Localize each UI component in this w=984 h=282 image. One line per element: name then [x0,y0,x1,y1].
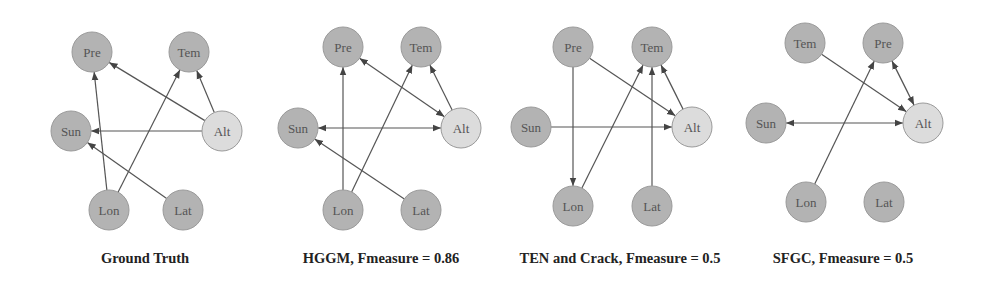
node-label-pre: Pre [83,45,101,60]
causal-graphs-figure: PreTemSunAltLonLatPreTemSunAltLonLatPreT… [0,0,984,282]
node-label-tem: Tem [410,40,433,55]
node-label-lat: Lat [643,199,661,214]
node-label-sun: Sun [61,124,82,139]
edge-alt-tem [197,70,215,112]
edge-alt-tem [661,65,683,109]
graph-2-edges [551,58,683,188]
edge-pre-alt [359,58,444,116]
node-label-lat: Lat [412,203,430,218]
node-label-sun: Sun [521,120,542,135]
node-label-lon: Lon [796,195,817,210]
node-label-alt: Alt [915,116,932,131]
graph-1-edges [315,58,453,199]
node-label-tem: Tem [178,45,201,60]
node-label-pre: Pre [334,40,352,55]
graph-3-edges [786,54,914,184]
caption-sfgc: SFGC, Fmeasure = 0.5 [773,250,914,267]
node-label-sun: Sun [288,121,309,136]
node-label-lon: Lon [333,203,354,218]
node-label-lon: Lon [563,199,584,214]
node-label-tem: Tem [794,36,817,51]
node-label-sun: Sun [756,116,777,131]
node-label-lon: Lon [99,203,120,218]
node-label-tem: Tem [641,40,664,55]
edge-lat-sun [315,139,405,199]
node-label-alt: Alt [453,121,470,136]
node-label-pre: Pre [874,36,892,51]
nodes-layer: PreTemSunAltLonLatPreTemSunAltLonLatPreT… [51,23,943,230]
edge-alt-tem [430,65,452,110]
node-label-pre: Pre [564,40,582,55]
caption-ten-crack: TEN and Crack, Fmeasure = 0.5 [520,250,721,267]
edge-lat-sun [87,143,166,199]
caption-ground-truth: Ground Truth [101,250,189,267]
node-label-alt: Alt [684,120,701,135]
node-label-alt: Alt [214,124,231,139]
node-label-lat: Lat [174,203,192,218]
graph-0-edges [87,62,214,198]
node-label-lat: Lat [875,195,893,210]
caption-hggm: HGGM, Fmeasure = 0.86 [303,250,460,267]
edge-pre-alt [892,61,914,105]
